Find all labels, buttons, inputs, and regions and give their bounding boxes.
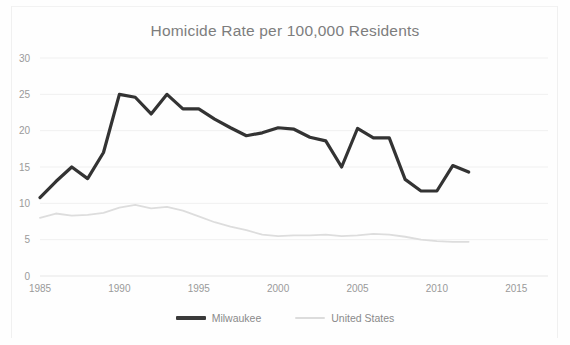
x-tick-label: 2005 <box>346 283 369 294</box>
x-tick-label: 1995 <box>188 283 211 294</box>
legend-item-united-states[interactable]: United States <box>295 312 394 324</box>
chart-plot-area: 051015202530 198519901995200020052010201… <box>0 0 570 345</box>
y-tick-label: 10 <box>19 198 31 209</box>
y-tick-label: 20 <box>19 125 31 136</box>
chart-container: Homicide Rate per 100,000 Residents 0510… <box>0 0 570 345</box>
x-tick-label: 2015 <box>505 283 528 294</box>
series-line-united-states <box>40 205 469 242</box>
x-tick-label: 1990 <box>108 283 131 294</box>
y-tick-label: 15 <box>19 162 31 173</box>
legend-swatch-united-states-icon <box>295 317 325 319</box>
legend-item-milwaukee[interactable]: Milwaukee <box>176 312 262 324</box>
legend-label-milwaukee: Milwaukee <box>212 312 262 324</box>
x-tick-label: 2000 <box>267 283 290 294</box>
data-series <box>40 94 469 242</box>
chart-legend: Milwaukee United States <box>0 312 570 324</box>
gridlines <box>40 58 548 276</box>
y-tick-label: 25 <box>19 89 31 100</box>
x-axis-tick-labels: 1985199019952000200520102015 <box>29 283 528 294</box>
series-line-milwaukee <box>40 94 469 197</box>
y-tick-label: 30 <box>19 53 31 64</box>
legend-label-united-states: United States <box>331 312 394 324</box>
y-tick-label: 0 <box>24 271 30 282</box>
x-tick-label: 2010 <box>426 283 449 294</box>
y-axis-tick-labels: 051015202530 <box>19 53 31 282</box>
x-tick-label: 1985 <box>29 283 52 294</box>
legend-swatch-milwaukee-icon <box>176 316 206 319</box>
y-tick-label: 5 <box>24 234 30 245</box>
